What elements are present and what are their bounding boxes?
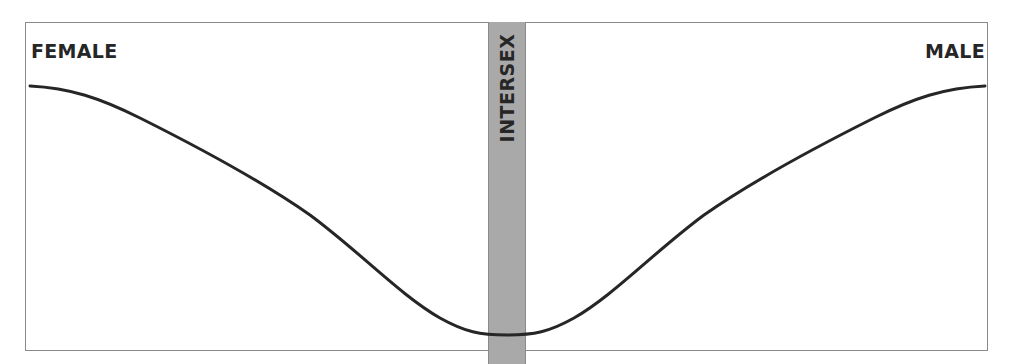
intersex-label: INTERSEX [496, 34, 518, 143]
male-label: MALE [925, 40, 985, 62]
female-label: FEMALE [31, 40, 117, 62]
